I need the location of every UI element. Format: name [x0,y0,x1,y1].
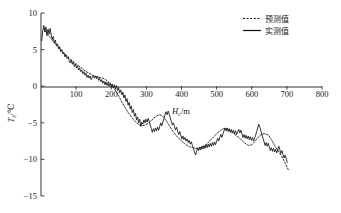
y-axis-title-unit: /℃ [6,104,16,116]
x-tick-label: 600 [245,89,258,99]
y-tick-label: 10 [29,8,38,18]
x-tick-label: 700 [281,89,294,99]
svg-text:Hc/m: Hc/m [171,106,190,117]
x-axis-title-unit: /m [181,106,190,116]
x-tick-label: 500 [210,89,223,99]
svg-text:Tz/℃: Tz/℃ [6,104,17,123]
y-tick-label: −5 [28,118,37,128]
chart-legend: 预测值 实测值 [243,14,289,36]
legend-label-measured: 实测值 [265,26,289,36]
x-axis-tick-labels: 100200300400500600700800 [70,89,329,99]
y-tick-label: 0 [33,81,37,91]
x-tick-label: 100 [70,89,83,99]
x-tick-label: 400 [175,89,188,99]
chart-canvas: 1050−5−10−15 100200300400500600700800 Tz… [0,0,341,213]
legend-label-predicted: 预测值 [265,14,289,24]
y-tick-label: 5 [33,45,37,55]
x-tick-label: 800 [316,89,329,99]
y-tick-label: −15 [24,191,37,201]
x-tick-label: 300 [140,89,153,99]
y-axis-title: Tz/℃ [6,104,17,123]
y-tick-label: −10 [24,154,37,164]
y-axis-tick-labels: 1050−5−10−15 [24,8,37,201]
figure-container: 1050−5−10−15 100200300400500600700800 Tz… [0,0,341,213]
x-axis-title: Hc/m [171,106,190,117]
